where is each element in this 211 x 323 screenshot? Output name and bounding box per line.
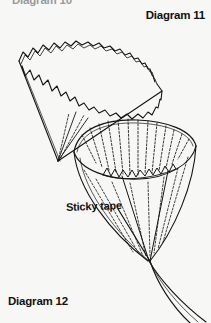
upper-cone-far-rim-zigzag-inner: [21, 44, 157, 84]
upper-cone-fold-line-4: [58, 118, 88, 161]
lower-funnel-seam-zigzag: [103, 164, 176, 177]
diagram-11-caption: Diagram 11: [146, 9, 205, 21]
upper-cone-right-edge: [58, 91, 162, 161]
lower-funnel-tail-mid: [150, 262, 198, 322]
diagram-12-caption: Diagram 12: [8, 295, 68, 307]
sticky-tape-caption: Sticky tape: [66, 199, 122, 213]
lower-funnel-rim-front: [74, 146, 196, 179]
diagram-figure: Diagram 10 Diagram 11 Sticky tape Diagra…: [0, 0, 211, 323]
lower-funnel-shape: [74, 119, 206, 323]
lower-funnel-right-wall: [150, 146, 196, 261]
upper-cone-fold-line-2: [58, 112, 76, 161]
lower-funnel-tail-outer: [149, 261, 206, 322]
upper-cone-shape: [19, 41, 162, 161]
clipped-top-caption: Diagram 10: [12, 0, 72, 6]
diagram-artwork: [0, 0, 211, 323]
lower-funnel-tail-inner: [150, 261, 190, 323]
lower-funnel-pleat-lines: [82, 119, 189, 175]
upper-cone-near-rim-zigzag: [22, 66, 162, 119]
lower-funnel-fold-to-point-2: [150, 171, 168, 261]
